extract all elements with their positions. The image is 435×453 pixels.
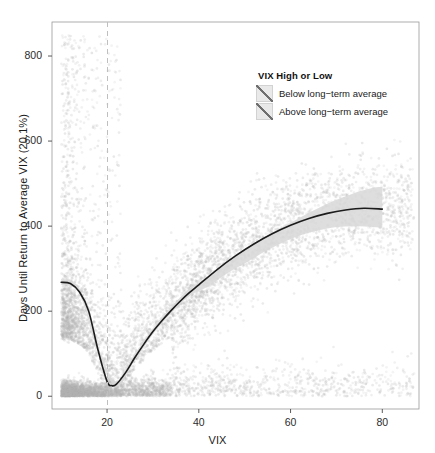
legend-title: VIX High or Low [258,70,396,81]
x-tick-label-40: 40 [182,416,216,428]
legend-swatch-above [256,103,273,120]
x-tick-label-60: 60 [274,416,308,428]
legend: VIX High or Low Below long−term average … [256,70,396,120]
y-tick-label-200: 200 [8,304,42,316]
legend-item-below: Below long−term average [256,84,396,102]
x-axis-title: VIX [0,434,435,446]
legend-label-above: Above long−term average [279,106,388,117]
legend-item-above: Above long−term average [256,102,396,120]
y-tick-label-600: 600 [8,134,42,146]
y-tick-label-400: 400 [8,219,42,231]
y-tick-label-800: 800 [8,49,42,61]
x-tick-label-20: 20 [90,416,124,428]
legend-label-below: Below long−term average [279,88,387,99]
vix-days-to-average-chart: Days Until Return to Average VIX (20.1%)… [0,0,435,453]
y-tick-label-0: 0 [8,389,42,401]
chart-canvas [0,0,435,453]
x-tick-label-80: 80 [365,416,399,428]
legend-swatch-below [256,85,273,102]
